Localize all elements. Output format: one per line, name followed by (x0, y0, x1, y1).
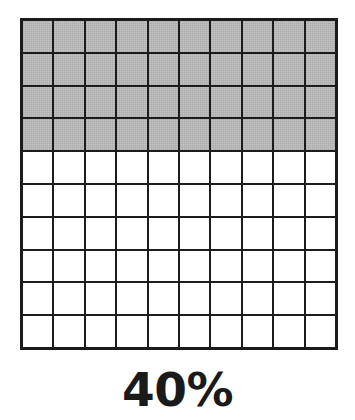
grid-cell (243, 251, 272, 282)
grid-cell (86, 119, 115, 150)
grid-cell (149, 185, 178, 216)
grid-cell (211, 316, 240, 347)
grid-cell (54, 54, 83, 85)
grid-cell (306, 185, 335, 216)
grid-cell (306, 21, 335, 52)
grid-cell (211, 152, 240, 183)
grid-cell (149, 21, 178, 52)
grid-cell (23, 218, 52, 249)
grid-cell (117, 283, 146, 314)
grid-cell (149, 251, 178, 282)
grid-cell (117, 54, 146, 85)
grid-cell (86, 152, 115, 183)
grid-cell (274, 316, 303, 347)
grid-cell (54, 283, 83, 314)
grid-cell (211, 251, 240, 282)
grid-cell (86, 54, 115, 85)
grid-cell (243, 283, 272, 314)
grid-cell (117, 316, 146, 347)
grid-cell (180, 119, 209, 150)
grid-cell (306, 316, 335, 347)
grid-cell (180, 283, 209, 314)
grid-cell (117, 87, 146, 118)
grid-cell (149, 87, 178, 118)
grid-cell (23, 21, 52, 52)
grid-cell (54, 152, 83, 183)
hundred-square-grid (20, 18, 338, 350)
grid-cell (274, 54, 303, 85)
grid-cell (86, 87, 115, 118)
grid-cell (274, 218, 303, 249)
grid-cell (86, 251, 115, 282)
grid-cell (274, 21, 303, 52)
grid-cell (117, 119, 146, 150)
grid-cell (149, 316, 178, 347)
grid-cell (86, 21, 115, 52)
grid-cell (23, 185, 52, 216)
grid-cell (180, 218, 209, 249)
grid-cell (180, 152, 209, 183)
grid-cell (86, 316, 115, 347)
grid-cell (54, 316, 83, 347)
grid-cell (243, 21, 272, 52)
grid-cell (180, 87, 209, 118)
grid-cell (243, 87, 272, 118)
grid-cell (117, 152, 146, 183)
grid-cell (274, 152, 303, 183)
grid-cell (117, 218, 146, 249)
grid-cell (211, 119, 240, 150)
grid-cell (274, 185, 303, 216)
grid-cell (243, 218, 272, 249)
grid-cell (211, 21, 240, 52)
grid-cell (149, 119, 178, 150)
grid-cell (117, 21, 146, 52)
grid-cell (211, 185, 240, 216)
grid-cell (306, 54, 335, 85)
grid-cell (23, 152, 52, 183)
grid-cell (23, 54, 52, 85)
grid-cell (243, 316, 272, 347)
percent-caption: 40% (0, 366, 355, 413)
grid-cell (54, 21, 83, 52)
grid-cell (117, 185, 146, 216)
grid-cell (180, 54, 209, 85)
grid-cell (117, 251, 146, 282)
grid-cell (211, 283, 240, 314)
grid-cell (86, 185, 115, 216)
grid-cell (274, 283, 303, 314)
grid-cell (23, 87, 52, 118)
grid-cell (243, 119, 272, 150)
grid-cell (306, 218, 335, 249)
grid-cell (54, 251, 83, 282)
grid-cell (243, 54, 272, 85)
grid-cell (23, 119, 52, 150)
grid-cell (274, 119, 303, 150)
grid-cell (54, 185, 83, 216)
grid-cell (211, 87, 240, 118)
grid-cell (243, 185, 272, 216)
grid-cell (23, 251, 52, 282)
percent-grid-figure: 40% (0, 0, 355, 420)
grid-cell (274, 87, 303, 118)
grid-cell (86, 283, 115, 314)
grid-cell (243, 152, 272, 183)
hundred-square-grid-container (20, 18, 338, 350)
grid-cell (306, 251, 335, 282)
grid-cell (211, 54, 240, 85)
grid-cell (306, 283, 335, 314)
grid-cell (23, 316, 52, 347)
grid-cell (149, 283, 178, 314)
grid-cell (180, 21, 209, 52)
grid-cell (149, 218, 178, 249)
grid-cell (54, 119, 83, 150)
grid-cell (149, 54, 178, 85)
grid-cell (306, 87, 335, 118)
grid-cell (274, 251, 303, 282)
grid-cell (180, 316, 209, 347)
grid-cell (54, 218, 83, 249)
grid-cell (54, 87, 83, 118)
grid-cell (149, 152, 178, 183)
grid-cell (211, 218, 240, 249)
grid-cell (180, 251, 209, 282)
grid-cell (306, 119, 335, 150)
